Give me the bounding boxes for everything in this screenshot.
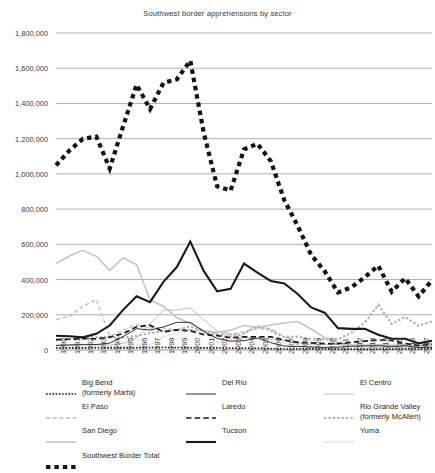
x-axis-tick: 2003: [234, 338, 243, 354]
y-axis-tick: 600,000: [0, 240, 48, 249]
x-axis-tick: 2017: [422, 338, 431, 354]
x-axis-tick: 1999: [180, 338, 189, 354]
x-axis-tick: 2016: [408, 338, 417, 354]
x-axis-tick: 1996: [140, 338, 149, 354]
x-axis-tick: 2007: [287, 338, 296, 354]
x-axis-tick: 1993: [99, 338, 108, 354]
chart-svg: [0, 24, 435, 354]
x-axis-tick: 2012: [355, 338, 364, 354]
x-axis-tick: 2010: [328, 338, 337, 354]
legend-swatch-laredo: [186, 408, 216, 416]
legend-label: El Paso: [82, 402, 108, 412]
legend-label: Tucson: [222, 426, 246, 436]
x-axis-tick: 2001: [207, 338, 216, 354]
legend-label-sub: (formerly Marfa): [82, 388, 135, 398]
legend-label: San Diego: [82, 426, 117, 436]
y-axis-tick: 1,400,000: [0, 99, 48, 108]
y-axis-tick: 1,600,000: [0, 64, 48, 73]
legend-swatch-southwest-border-total: [46, 457, 76, 465]
y-axis-tick: 0: [0, 346, 48, 355]
x-axis-tick: 1991: [73, 338, 82, 354]
legend-label: Southwest Border Total: [82, 451, 159, 461]
x-axis-tick: 2002: [220, 338, 229, 354]
legend-swatch-yuma: [324, 432, 354, 440]
x-axis-tick: 2009: [314, 338, 323, 354]
x-axis-tick: 1995: [126, 338, 135, 354]
legend-label: El Centro: [360, 378, 391, 388]
x-axis-tick: 2015: [395, 338, 404, 354]
legend-swatch-tucson: [186, 432, 216, 440]
chart-title: Southwest border apprehensions by sector: [0, 9, 435, 18]
legend-swatch-rio-grande-valley: [324, 408, 354, 416]
legend-swatch-big-bend: [46, 384, 76, 392]
x-axis-tick: 1998: [167, 338, 176, 354]
y-axis-tick: 1,800,000: [0, 29, 48, 38]
legend-label: Rio Grande Valley(formerly McAllen): [360, 402, 421, 421]
chart-legend: Big Bend(formerly Marfa)El PasoSan Diego…: [0, 378, 435, 473]
legend-label: Del Rio: [222, 378, 247, 388]
series-line-tucson: [56, 242, 432, 344]
x-axis-tick: 1994: [113, 338, 122, 354]
x-axis-tick: 2013: [368, 338, 377, 354]
y-axis-tick: 1,000,000: [0, 169, 48, 178]
y-axis-tick: 800,000: [0, 205, 48, 214]
legend-label: Big Bend(formerly Marfa): [82, 378, 135, 397]
plot-area: 1,800,0001,600,0001,400,0001,200,0001,00…: [0, 24, 435, 354]
x-axis-tick: 2000: [193, 338, 202, 354]
chart-page: Southwest border apprehensions by sector…: [0, 0, 435, 473]
x-axis-tick: 1990: [59, 338, 68, 354]
legend-swatch-el-paso: [46, 408, 76, 416]
legend-swatch-el-centro: [324, 384, 354, 392]
x-axis-tick: 1997: [153, 338, 162, 354]
series-line-southwest-border-total: [56, 61, 432, 297]
x-axis-tick: 1992: [86, 338, 95, 354]
x-axis-tick: 2014: [381, 338, 390, 354]
legend-label: Laredo: [222, 402, 245, 412]
x-axis-tick: 2006: [274, 338, 283, 354]
x-axis-tick: 2004: [247, 338, 256, 354]
y-axis-tick: 1,200,000: [0, 134, 48, 143]
legend-swatch-san-diego: [46, 432, 76, 440]
legend-label: Yuma: [360, 426, 379, 436]
x-axis-tick: 2008: [301, 338, 310, 354]
x-axis-tick: 2005: [261, 338, 270, 354]
x-axis-tick: 2011: [341, 338, 350, 354]
y-axis-tick: 200,000: [0, 310, 48, 319]
legend-label-sub: (formerly McAllen): [360, 412, 421, 422]
y-axis-tick: 400,000: [0, 275, 48, 284]
legend-swatch-del-rio: [186, 384, 216, 392]
